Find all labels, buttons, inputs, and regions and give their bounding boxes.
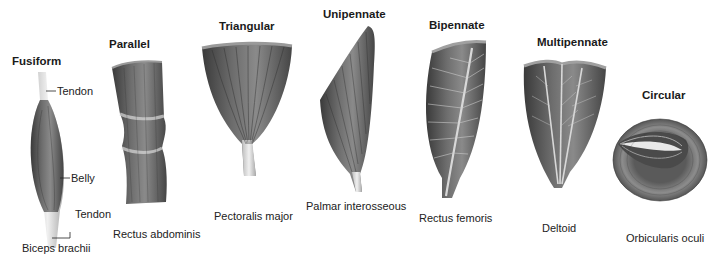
- circular-muscle-illustration: [610, 116, 710, 204]
- bipennate-example: Rectus femoris: [419, 212, 492, 224]
- unipennate-title: Unipennate: [323, 8, 386, 20]
- tendon-bottom-label: Tendon: [75, 208, 111, 220]
- triangular-title: Triangular: [219, 20, 275, 32]
- circular-title: Circular: [642, 89, 685, 101]
- parallel-muscle-illustration: [104, 58, 174, 208]
- unipennate-muscle-illustration: [318, 24, 383, 194]
- bipennate-title: Bipennate: [429, 19, 485, 31]
- unipennate-example: Palmar interosseous: [306, 200, 406, 212]
- belly-label: Belly: [71, 172, 95, 184]
- triangular-example: Pectoralis major: [214, 210, 293, 222]
- tendon-top-label: Tendon: [57, 85, 93, 97]
- bipennate-muscle-illustration: [420, 38, 490, 203]
- fusiform-muscle-illustration: [20, 70, 90, 250]
- triangular-muscle-illustration: [200, 40, 295, 180]
- parallel-example: Rectus abdominis: [113, 228, 200, 240]
- parallel-title: Parallel: [109, 38, 150, 50]
- fusiform-example: Biceps brachii: [22, 242, 90, 254]
- multipennate-muscle-illustration: [520, 56, 610, 196]
- multipennate-example: Deltoid: [542, 222, 576, 234]
- fusiform-title: Fusiform: [12, 55, 61, 67]
- circular-example: Orbicularis oculi: [626, 232, 704, 244]
- multipennate-title: Multipennate: [537, 36, 608, 48]
